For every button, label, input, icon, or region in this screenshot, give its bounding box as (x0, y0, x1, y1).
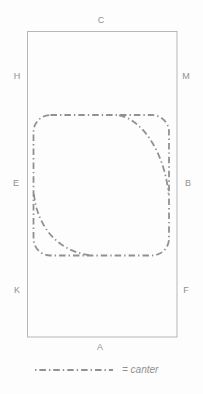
arena-border (28, 32, 178, 338)
arena-letter-b: B (185, 179, 191, 188)
canter-diagonal-bottom-left (34, 194, 89, 255)
arena-diagram-canvas (0, 0, 203, 394)
arena-diagram: C H M E B K F A = canter (0, 0, 203, 394)
arena-letter-a: A (97, 343, 103, 352)
legend-canter-label: = canter (122, 364, 158, 375)
arena-letter-k: K (14, 286, 20, 295)
arena-letter-h: H (14, 72, 21, 81)
arena-letter-e: E (13, 179, 19, 188)
canter-track-loop (34, 115, 170, 256)
arena-letter-m: M (182, 72, 190, 81)
canter-diagonal-top-right (119, 115, 169, 194)
arena-letter-c: C (98, 16, 105, 25)
arena-letter-f: F (183, 286, 189, 295)
